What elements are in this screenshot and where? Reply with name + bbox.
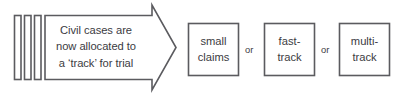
process-arrow-caption: Civil cases are now allocated to a ‘trac… <box>44 22 148 71</box>
outcome-label-multi-track-line-2: track <box>339 50 391 66</box>
arrow-caption-line-1: Civil cases are <box>44 22 148 38</box>
connector-or-1: or <box>245 45 253 54</box>
arrow-caption-line-3: a ‘track’ for trial <box>44 55 148 71</box>
outcome-label-small-claims-line-1: small <box>188 34 240 50</box>
document-stack-bar-2 <box>25 16 32 80</box>
outcome-label-small-claims-line-2: claims <box>188 50 240 66</box>
connector-or-2: or <box>321 45 329 54</box>
outcome-label-small-claims: small claims <box>188 34 240 65</box>
outcome-label-multi-track-line-1: multi- <box>339 34 391 50</box>
outcome-label-fast-track: fast- track <box>264 34 316 65</box>
document-stack-bar-3 <box>35 16 42 80</box>
arrow-caption-line-2: now allocated to <box>44 38 148 54</box>
document-stack-bar-1 <box>15 16 22 80</box>
diagram-canvas: Civil cases are now allocated to a ‘trac… <box>0 0 404 99</box>
outcome-label-fast-track-line-2: track <box>264 50 316 66</box>
outcome-label-fast-track-line-1: fast- <box>264 34 316 50</box>
outcome-label-multi-track: multi- track <box>339 34 391 65</box>
